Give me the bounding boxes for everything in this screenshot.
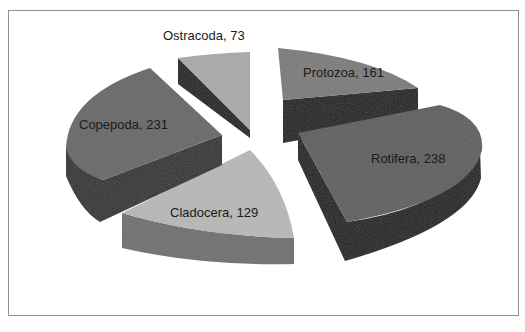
label-rotifera: Rotifera, 238 <box>371 151 445 166</box>
pie-chart: Ostracoda, 73 Protozoa, 161 Rotifera, 23… <box>0 0 525 332</box>
label-copepoda: Copepoda, 231 <box>79 117 168 132</box>
label-ostracoda: Ostracoda, 73 <box>163 28 245 43</box>
label-cladocera: Cladocera, 129 <box>170 205 258 220</box>
label-protozoa: Protozoa, 161 <box>303 65 384 80</box>
slice-rotifera[interactable] <box>298 105 482 261</box>
